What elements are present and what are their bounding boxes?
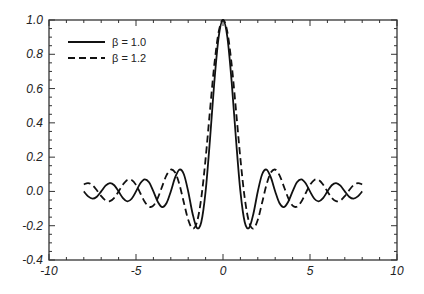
y-tick-label: 0.8	[26, 47, 43, 61]
plot-frame	[49, 20, 397, 260]
sinc-line-chart: -10-50510-0.4-0.20.00.20.40.60.81.0 β = …	[0, 0, 424, 294]
y-tick-label: -0.4	[22, 253, 43, 267]
legend-label: β = 1.2	[112, 52, 146, 64]
legend-label: β = 1.0	[112, 36, 146, 48]
plot-area-border	[49, 20, 397, 260]
legend: β = 1.0β = 1.2	[68, 36, 146, 64]
x-tick-label: -5	[131, 264, 142, 278]
y-tick-label: -0.2	[22, 219, 43, 233]
y-tick-label: 0.0	[26, 184, 43, 198]
y-tick-label: 0.2	[26, 150, 43, 164]
y-tick-label: 0.4	[26, 116, 43, 130]
y-tick-label: 0.6	[26, 82, 43, 96]
x-tick-label: 0	[220, 264, 227, 278]
y-tick-label: 1.0	[26, 13, 43, 27]
x-tick-label: 5	[307, 264, 314, 278]
x-tick-label: 10	[390, 264, 404, 278]
axis-ticks	[49, 20, 397, 260]
tick-labels: -10-50510-0.4-0.20.00.20.40.60.81.0	[22, 13, 404, 278]
